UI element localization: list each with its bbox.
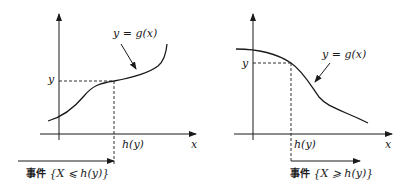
right-label-pointer-arrow <box>315 63 330 82</box>
left-event-label: 事件 {X ⩽ h(y)} <box>26 168 109 179</box>
left-event-prefix: 事件 <box>26 168 46 179</box>
diagram-canvas <box>0 0 408 190</box>
left-x-axis-label: x <box>191 139 197 150</box>
left-graph <box>18 14 196 165</box>
left-event-expression: {X ⩽ h(y)} <box>50 167 110 180</box>
left-curve-increasing <box>48 44 167 121</box>
right-event-label: 事件 {X ⩾ h(y)} <box>290 168 373 179</box>
left-y-tick-label: y <box>48 74 54 85</box>
left-h-tick-label: h(y) <box>122 139 144 150</box>
left-label-pointer-arrow <box>121 44 136 69</box>
right-x-axis-label: x <box>385 139 391 150</box>
right-curve-label: y = g(x) <box>322 49 366 60</box>
right-event-expression: {X ⩾ h(y)} <box>314 167 374 180</box>
right-event-prefix: 事件 <box>290 168 310 179</box>
right-h-tick-label: h(y) <box>294 139 316 150</box>
left-curve-label: y = g(x) <box>113 28 157 39</box>
right-y-tick-label: y <box>242 58 248 69</box>
